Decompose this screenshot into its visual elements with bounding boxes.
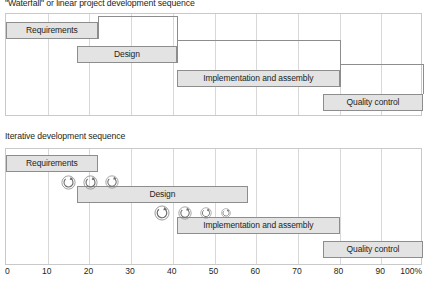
gantt-bar-label: Implementation and assembly bbox=[203, 221, 313, 230]
gridline bbox=[256, 14, 257, 115]
connector-segment bbox=[340, 64, 423, 65]
gantt-bar: Requirements bbox=[6, 22, 98, 39]
gantt-bar-label: Design bbox=[114, 50, 140, 59]
iteration-cycle-icon bbox=[83, 175, 98, 190]
gantt-bar-label: Implementation and assembly bbox=[203, 74, 313, 83]
gantt-bar: Requirements bbox=[6, 155, 98, 172]
iteration-cycle-icon bbox=[105, 175, 119, 189]
waterfall-chart-title: "Waterfall" or linear project developmen… bbox=[5, 0, 195, 9]
gridline bbox=[131, 14, 132, 115]
axis-tick-label: 40 bbox=[167, 266, 176, 277]
percent-axis: 0102030405060708090100% bbox=[0, 266, 427, 286]
iteration-cycle-icon bbox=[154, 205, 170, 221]
gridline bbox=[131, 149, 132, 264]
connector-segment bbox=[177, 40, 340, 41]
axis-tick-label: 70 bbox=[292, 266, 301, 277]
gridline bbox=[298, 149, 299, 264]
gantt-bar: Implementation and assembly bbox=[177, 217, 340, 234]
gantt-bar-label: Design bbox=[149, 190, 175, 199]
gantt-bar: Design bbox=[77, 186, 248, 203]
iteration-cycle-icon bbox=[221, 208, 231, 218]
axis-tick-label: 60 bbox=[250, 266, 259, 277]
gantt-bar: Quality control bbox=[323, 94, 423, 111]
axis-tick-label: 10 bbox=[42, 266, 51, 277]
gantt-bar: Design bbox=[77, 46, 177, 63]
connector-segment bbox=[98, 16, 99, 39]
axis-tick-label: 50 bbox=[209, 266, 218, 277]
gantt-bar: Implementation and assembly bbox=[177, 70, 340, 87]
axis-tick-label: 20 bbox=[84, 266, 93, 277]
gridline bbox=[173, 149, 174, 264]
axis-tick-label: 90 bbox=[376, 266, 385, 277]
connector-segment bbox=[98, 16, 177, 17]
gridline bbox=[256, 149, 257, 264]
gantt-comparison-figure: "Waterfall" or linear project developmen… bbox=[0, 0, 427, 286]
connector-segment bbox=[423, 64, 424, 94]
gridline bbox=[298, 14, 299, 115]
connector-segment bbox=[340, 64, 341, 87]
gantt-bar-label: Quality control bbox=[347, 245, 400, 254]
gantt-bar-label: Requirements bbox=[26, 26, 78, 35]
axis-tick-label: 80 bbox=[334, 266, 343, 277]
iteration-cycle-icon bbox=[61, 175, 76, 190]
waterfall-plot-area: RequirementsDesignImplementation and ass… bbox=[5, 13, 422, 116]
gantt-bar-label: Requirements bbox=[26, 159, 78, 168]
iteration-cycle-icon bbox=[178, 206, 192, 220]
iterative-chart-title: Iterative development sequence bbox=[5, 131, 125, 142]
axis-tick-label: 0 bbox=[5, 266, 10, 277]
gridline bbox=[173, 14, 174, 115]
iteration-cycle-icon bbox=[200, 207, 212, 219]
axis-tick-label: 30 bbox=[125, 266, 134, 277]
connector-segment bbox=[177, 40, 178, 63]
axis-tick-label: 100% bbox=[400, 266, 422, 277]
gridline bbox=[215, 149, 216, 264]
gantt-bar-label: Quality control bbox=[347, 98, 400, 107]
gantt-bar: Quality control bbox=[323, 241, 423, 258]
iterative-plot-area: RequirementsDesignImplementation and ass… bbox=[5, 148, 422, 265]
gridline bbox=[215, 14, 216, 115]
